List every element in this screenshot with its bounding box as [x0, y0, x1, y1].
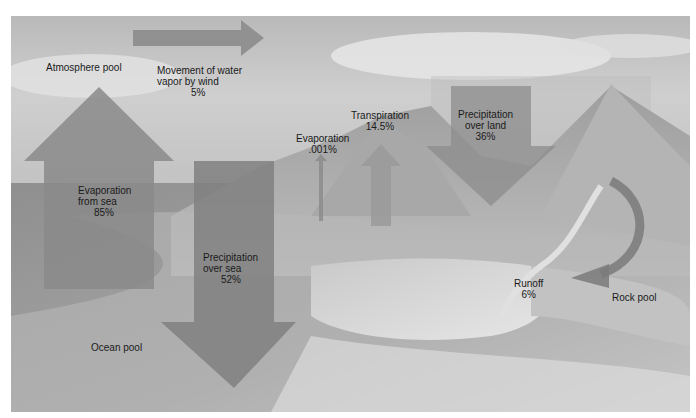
rock-pool-label: Rock pool: [612, 292, 656, 303]
evaporation-sea-line2: from sea: [78, 196, 131, 207]
evaporation-land-line1: Evaporation: [296, 133, 349, 144]
water-cycle-diagram: Atmosphere pool Movement of water vapor …: [11, 16, 690, 412]
precipitation-sea-line2: over sea: [203, 263, 258, 274]
evaporation-land-label: Evaporation .001%: [296, 133, 349, 155]
precipitation-land-label: Precipitation over land 36%: [458, 109, 513, 142]
ocean-pool-label: Ocean pool: [91, 342, 142, 353]
wind-arrow: [133, 20, 264, 56]
cloud: [331, 32, 611, 80]
transpiration-label: Transpiration 14.5%: [351, 110, 409, 132]
precipitation-sea-value: 52%: [203, 274, 258, 285]
transpiration-line1: Transpiration: [351, 110, 409, 121]
wind-flow-line1: Movement of water: [157, 65, 242, 76]
precipitation-land-line2: over land: [458, 120, 513, 131]
wind-flow-value: 5%: [157, 87, 242, 98]
precipitation-land-value: 36%: [458, 131, 513, 142]
runoff-value: 6%: [514, 289, 543, 300]
wind-flow-line2: vapor by wind: [157, 76, 242, 87]
precipitation-sea-line1: Precipitation: [203, 252, 258, 263]
wind-flow-label: Movement of water vapor by wind 5%: [157, 65, 242, 98]
evaporation-sea-value: 85%: [78, 207, 131, 218]
evaporation-land-value: .001%: [296, 144, 349, 155]
transpiration-value: 14.5%: [351, 121, 409, 132]
runoff-label: Runoff 6%: [514, 278, 543, 300]
runoff-line1: Runoff: [514, 278, 543, 289]
precipitation-sea-label: Precipitation over sea 52%: [203, 252, 258, 285]
atmosphere-pool-label: Atmosphere pool: [46, 62, 122, 73]
evaporation-sea-label: Evaporation from sea 85%: [78, 185, 131, 218]
precipitation-land-line1: Precipitation: [458, 109, 513, 120]
evaporation-sea-line1: Evaporation: [78, 185, 131, 196]
